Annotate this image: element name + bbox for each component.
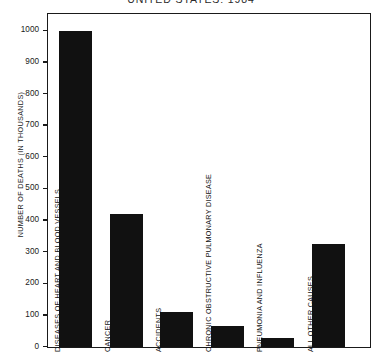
plot-area: DISEASES OF HEART AND BLOOD VESSELSCANCE… <box>48 14 370 347</box>
bar-label: CHRONIC OBSTRUCTIVE PULMONARY DISEASE <box>204 174 213 352</box>
chart-title: UNITED STATES: 1984 <box>0 0 382 5</box>
bar <box>312 244 345 347</box>
chart-figure: UNITED STATES: 1984 NUMBER OF DEATHS (IN… <box>0 0 382 363</box>
y-tick-label: 200 <box>0 278 39 287</box>
bar <box>110 214 143 347</box>
y-tick-label: 300 <box>0 247 39 256</box>
plot-frame: DISEASES OF HEART AND BLOOD VESSELSCANCE… <box>47 13 371 348</box>
y-tick-label: 700 <box>0 120 39 129</box>
bar-label: PNEUMONIA AND INFLUENZA <box>255 243 264 352</box>
bar <box>211 326 244 348</box>
bar-label: CANCER <box>103 320 112 352</box>
bar-label: ACCIDENTS <box>154 308 163 352</box>
y-tick-label: 900 <box>0 57 39 66</box>
y-tick-label: 600 <box>0 152 39 161</box>
y-tick-label: 1000 <box>0 25 39 34</box>
bar-label: DISEASES OF HEART AND BLOOD VESSELS <box>53 189 62 352</box>
y-tick-label: 500 <box>0 183 39 192</box>
bar-label: ALL OTHER CAUSES <box>306 276 315 352</box>
y-tick-label: 100 <box>0 310 39 319</box>
bar <box>261 338 294 347</box>
bar <box>59 31 92 347</box>
y-tick-label: 800 <box>0 89 39 98</box>
y-axis-title: NUMBER OF DEATHS (IN THOUSANDS) <box>16 54 25 276</box>
y-tick-label: 400 <box>0 215 39 224</box>
y-tick-label: 0 <box>0 342 39 351</box>
bar <box>160 312 193 347</box>
